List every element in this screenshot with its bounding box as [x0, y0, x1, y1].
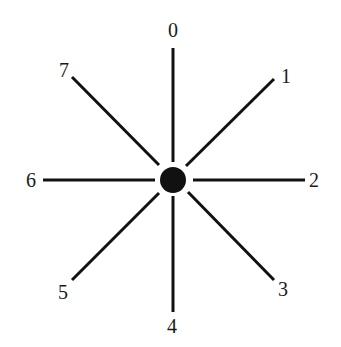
direction-label-4: 4: [167, 315, 177, 337]
direction-label-1: 1: [281, 65, 291, 87]
direction-label-0: 0: [168, 19, 178, 41]
direction-diagram: 01234567: [0, 0, 341, 347]
direction-label-3: 3: [278, 278, 288, 300]
spoke-up-left: [72, 77, 159, 165]
direction-label-6: 6: [26, 169, 36, 191]
spoke-down-left: [72, 193, 159, 280]
spoke-up-right: [186, 79, 274, 166]
direction-label-2: 2: [309, 169, 319, 191]
radial-directions-svg: 01234567: [0, 0, 341, 347]
center-dot: [160, 167, 186, 193]
direction-label-5: 5: [58, 281, 68, 303]
spoke-down-right: [188, 192, 274, 280]
direction-label-7: 7: [59, 59, 69, 81]
